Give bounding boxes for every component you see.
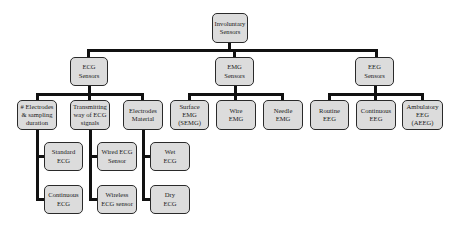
dry-ecg-node: Dry ECG — [150, 185, 190, 214]
needle-emg-node: Needle EMG — [263, 100, 303, 130]
root-node: Involuntary Sensors — [212, 13, 248, 43]
standard-ecg-node: Standard ECG — [44, 142, 83, 171]
emg-sensors-node: EMG Sensors — [215, 57, 254, 86]
wireless-ecg-sensor-node: Wireless ECG sensor — [97, 185, 137, 214]
connector — [36, 129, 39, 200]
ecg-electrodes-sampling-node: # Electrodes & sampling duration — [17, 100, 57, 130]
ecg-electrodes-material-node: Electrodes Material — [123, 100, 163, 130]
wire-emg-node: Wire EMG — [216, 100, 256, 130]
surface-emg-node: Surface EMG (SEMG) — [170, 100, 209, 130]
sensor-taxonomy-diagram: Involuntary Sensors ECG Sensors EMG Sens… — [0, 0, 458, 225]
eeg-sensors-node: EEG Sensors — [355, 57, 394, 86]
ambulatory-eeg-node: Ambulatory EEG (AEEG) — [402, 100, 443, 130]
ecg-transmitting-node: Transmitting way of ECG signals — [70, 100, 110, 130]
routine-eeg-node: Routine EEG — [310, 100, 349, 130]
connector — [142, 129, 145, 200]
ecg-sensors-node: ECG Sensors — [70, 57, 108, 86]
continuous-eeg-node: Continuous EEG — [356, 100, 396, 130]
wired-ecg-sensor-node: Wired ECG Sensor — [97, 142, 137, 171]
continuous-ecg-node: Continuous ECG — [44, 185, 83, 214]
wet-ecg-node: Wet ECG — [150, 142, 190, 171]
connector — [89, 129, 92, 200]
